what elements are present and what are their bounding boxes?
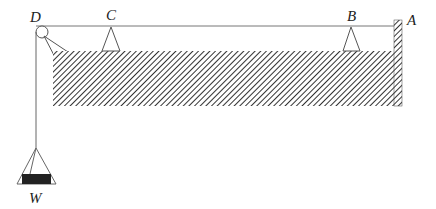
diagram-canvas: D C B A W [0, 0, 436, 209]
support-b [343, 27, 360, 51]
wall-a [394, 20, 402, 106]
label-w: W [29, 190, 43, 206]
label-d: D [29, 9, 41, 25]
label-c: C [106, 7, 117, 23]
label-b: B [347, 8, 356, 24]
pulley-d [36, 26, 48, 38]
beam-block [53, 51, 394, 106]
label-a: A [406, 12, 417, 28]
support-c [102, 27, 120, 51]
weight-w [22, 174, 51, 184]
